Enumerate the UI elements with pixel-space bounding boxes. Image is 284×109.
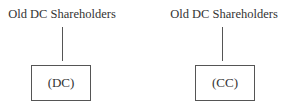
right-entity-box: (CC)	[195, 65, 255, 101]
right-shareholders-label: Old DC Shareholders	[154, 6, 284, 22]
right-connector-line	[222, 27, 223, 61]
left-shareholders-label: Old DC Shareholders	[0, 6, 132, 22]
left-entity-label: (DC)	[48, 75, 75, 91]
left-connector-line	[62, 27, 63, 61]
right-entity-label: (CC)	[212, 75, 238, 91]
left-entity-box: (DC)	[31, 65, 91, 101]
